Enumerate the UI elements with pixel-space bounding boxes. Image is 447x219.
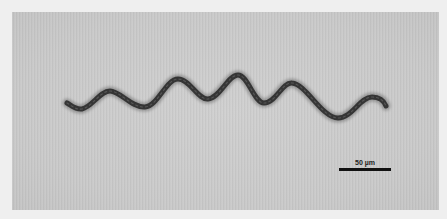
spiral-bacterium — [0, 0, 447, 219]
scale-bar-label: 50 µm — [339, 158, 391, 167]
scale-bar — [339, 168, 391, 171]
image-frame: 50 µm — [0, 0, 447, 219]
